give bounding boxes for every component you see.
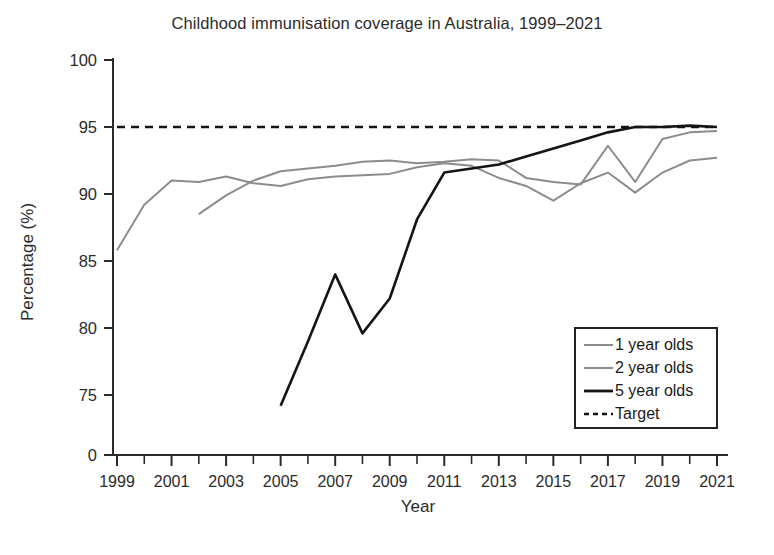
x-tick-label: 2011 <box>427 473 462 490</box>
x-axis-ticks: 1999200120032005200720092011201320152017… <box>99 455 735 490</box>
x-tick-label: 2007 <box>317 473 353 490</box>
x-tick-label: 1999 <box>99 473 135 490</box>
y-tick-label: 100 <box>69 51 97 69</box>
y-tick-label: 85 <box>79 252 97 270</box>
x-tick-label: 2001 <box>154 473 190 490</box>
y-tick-label: 80 <box>79 319 97 337</box>
chart-figure: Childhood immunisation coverage in Austr… <box>0 0 774 555</box>
legend-label-5-year-olds: 5 year olds <box>615 382 693 399</box>
x-tick-label: 2017 <box>590 473 626 490</box>
chart-legend: 1 year olds2 year olds5 year oldsTarget <box>575 328 717 428</box>
legend-label-2-year-olds: 2 year olds <box>615 359 693 376</box>
x-tick-label: 2019 <box>645 473 681 490</box>
x-tick-label: 2013 <box>481 473 517 490</box>
x-tick-label: 2015 <box>536 473 572 490</box>
x-tick-label: 2021 <box>699 473 735 490</box>
legend-label-target: Target <box>615 405 660 422</box>
y-tick-label: 95 <box>79 118 97 136</box>
series-line-2-year-olds <box>199 131 717 214</box>
x-tick-label: 2005 <box>263 473 299 490</box>
y-tick-label: 90 <box>79 185 97 203</box>
y-tick-label: 75 <box>79 386 97 404</box>
x-tick-label: 2009 <box>372 473 408 490</box>
y-tick-label: 0 <box>88 446 97 464</box>
plot-area: 07580859095100 1999200120032005200720092… <box>0 0 774 555</box>
x-tick-label: 2003 <box>208 473 244 490</box>
legend-label-1-year-olds: 1 year olds <box>615 336 693 353</box>
y-axis-ticks: 07580859095100 <box>69 51 113 464</box>
